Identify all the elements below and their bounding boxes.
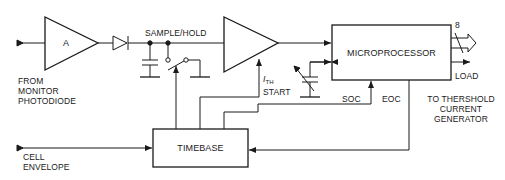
variable-capacitor-icon [294, 62, 331, 97]
monitor-input-label: FROM MONITOR PHOTODIODE [18, 76, 76, 106]
sample-hold-label: SAMPLE/HOLD [145, 28, 207, 38]
threshold-label-line1: TO THERSHOLD [420, 94, 502, 104]
monitor-label-line1: FROM [18, 76, 76, 86]
input-arrow-cell [17, 145, 152, 151]
data-bus-arrow-icon [451, 33, 476, 53]
amplifier-label: A [56, 38, 76, 48]
timebase-label: TIMEBASE [153, 143, 248, 153]
timebase-soc-line [224, 112, 258, 129]
monitor-label-line3: PHOTODIODE [18, 96, 76, 106]
soc-label: SOC [342, 94, 361, 104]
ith-start-label: ITH START [263, 74, 291, 97]
threshold-label-line3: GENERATOR [420, 114, 502, 124]
cell-envelope-label: CELL ENVELOPE [23, 152, 70, 172]
cell-label-line2: ENVELOPE [23, 162, 70, 172]
diode-icon [113, 36, 128, 50]
hold-capacitor-icon [140, 43, 160, 77]
ith-symbol: ITH [263, 74, 291, 87]
cell-label-line1: CELL [23, 152, 70, 162]
threshold-output-label: TO THERSHOLD CURRENT GENERATOR [420, 94, 502, 124]
ith-start-text: START [263, 87, 291, 97]
threshold-label-line2: CURRENT [420, 104, 502, 114]
eoc-label: EOC [382, 94, 401, 104]
bus-width-label: 8 [455, 20, 460, 30]
microprocessor-label: MICROPROCESSOR [332, 48, 451, 58]
input-arrow-monitor [17, 40, 45, 46]
monitor-label-line2: MONITOR [18, 86, 76, 96]
ith-subscript: TH [265, 79, 273, 85]
switch-icon [166, 43, 210, 77]
buffer-amplifier-triangle [224, 17, 278, 72]
load-label: LOAD [455, 71, 479, 81]
